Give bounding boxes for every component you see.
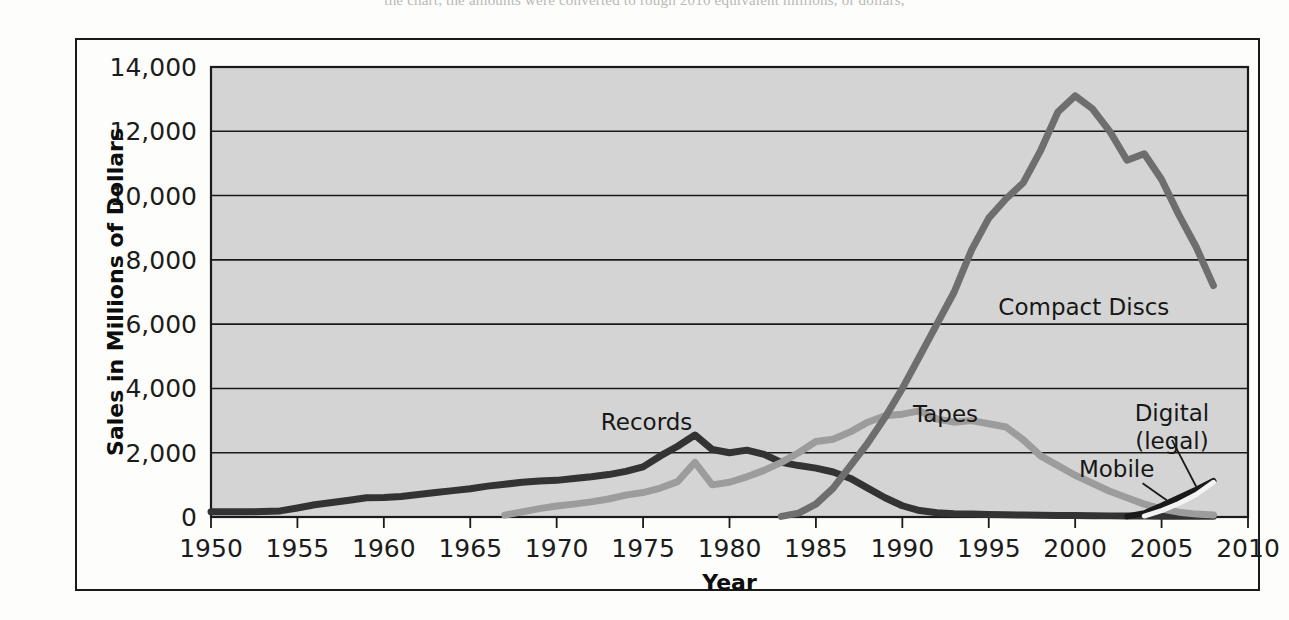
x-axis-tick-label: 1965 [438, 534, 502, 563]
x-axis-tick-label: 1995 [957, 534, 1021, 563]
y-axis-tick-label: 8,000 [125, 246, 197, 275]
y-axis-tick-label: 0 [181, 503, 197, 532]
x-axis-tick-label: 1980 [698, 534, 762, 563]
series-label-tapes: Tapes [912, 401, 978, 427]
series-label-compact-discs: Compact Discs [998, 294, 1169, 320]
series-label-records: Records [601, 409, 692, 435]
line-chart: 02,0004,0006,0008,00010,00012,00014,0001… [0, 0, 1289, 620]
y-axis-tick-label: 4,000 [125, 374, 197, 403]
y-axis-tick-label: 2,000 [125, 439, 197, 468]
y-axis-title: Sales in Millions of Dollars [103, 128, 128, 456]
x-axis-tick-label: 1985 [784, 534, 848, 563]
x-axis-tick-label: 1960 [352, 534, 416, 563]
series-label-mobile: Mobile [1079, 456, 1154, 482]
x-axis-tick-label: 2010 [1216, 534, 1280, 563]
chart-svg: 02,0004,0006,0008,00010,00012,00014,0001… [0, 0, 1289, 620]
x-axis-tick-label: 1975 [611, 534, 675, 563]
x-axis-tick-label: 2000 [1043, 534, 1107, 563]
x-axis-tick-label: 1990 [871, 534, 935, 563]
x-axis-tick-label: 2005 [1130, 534, 1194, 563]
y-axis-tick-label: 14,000 [110, 53, 197, 82]
x-axis-tick-label: 1970 [525, 534, 589, 563]
x-axis-tick-label: 1950 [179, 534, 243, 563]
x-axis-tick-label: 1955 [266, 534, 330, 563]
y-axis-tick-label: 6,000 [125, 310, 197, 339]
x-axis-title: Year [701, 570, 757, 595]
